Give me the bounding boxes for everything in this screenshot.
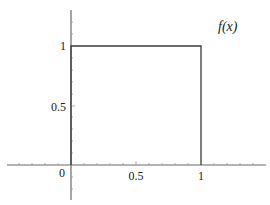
function-curve — [71, 46, 201, 165]
x-tick-label-1: 1 — [198, 169, 204, 183]
x-tick-label-0-5: 0.5 — [129, 169, 144, 183]
function-label: f(x) — [218, 19, 238, 35]
origin-label: 0 — [59, 166, 65, 180]
y-tick-label-0-5: 0.5 — [51, 100, 66, 114]
y-tick-label-1: 1 — [60, 39, 66, 53]
function-plot: 1 0.5 0 0.5 1 f(x) — [0, 0, 270, 205]
